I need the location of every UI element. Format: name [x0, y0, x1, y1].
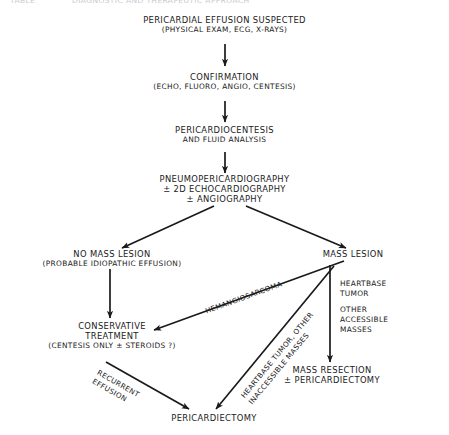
category-other-line2: ACCESSIBLE	[340, 315, 388, 325]
mass-lesion-category-heartbase: HEARTBASE TUMOR	[340, 279, 388, 298]
node-confirmation: CONFIRMATION (ECHO, FLUORO, ANGIO, CENTE…	[0, 73, 449, 92]
node-conservative-treatment: CONSERVATIVE TREATMENT (CENTESIS ONLY ± …	[0, 322, 224, 351]
arrow-imaging-to-mass-lesion	[246, 206, 346, 248]
category-heartbase-line1: HEARTBASE	[340, 279, 388, 289]
arrow-imaging-to-no-mass-lesion	[122, 206, 214, 248]
node-no-mass-lesion-line2: (PROBABLE IDIOPATHIC EFFUSION)	[0, 260, 224, 269]
node-pericardiectomy-line1: PERICARDIECTOMY	[134, 414, 294, 424]
node-mass-lesion-line1: MASS LESION	[288, 250, 418, 260]
node-conservative-line3: (CENTESIS ONLY ± STEROIDS ?)	[0, 342, 224, 351]
node-pericardiectomy: PERICARDIECTOMY	[134, 414, 294, 424]
node-suspected-line2: (PHYSICAL EXAM, ECG, X-RAYS)	[0, 26, 449, 35]
node-no-mass-lesion: NO MASS LESION (PROBABLE IDIOPATHIC EFFU…	[0, 250, 224, 269]
node-imaging-line3: ± ANGIOGRAPHY	[0, 195, 449, 205]
category-other-line1: OTHER	[340, 305, 388, 315]
node-pericardiocentesis-line2: AND FLUID ANALYSIS	[0, 136, 449, 145]
node-confirmation-line2: (ECHO, FLUORO, ANGIO, CENTESIS)	[0, 83, 449, 92]
flowchart-page: TABLE DIAGNOSTIC AND THERAPEUTIC APPROAC…	[0, 0, 449, 435]
mass-lesion-category-other-accessible: OTHER ACCESSIBLE MASSES	[340, 305, 388, 334]
node-pericardial-effusion-suspected: PERICARDIAL EFFUSION SUSPECTED (PHYSICAL…	[0, 16, 449, 35]
node-imaging: PNEUMOPERICARDIOGRAPHY ± 2D ECHOCARDIOGR…	[0, 175, 449, 205]
category-other-line3: MASSES	[340, 325, 388, 335]
mass-lesion-category-list: HEARTBASE TUMOR OTHER ACCESSIBLE MASSES	[340, 279, 388, 341]
category-heartbase-line2: TUMOR	[340, 289, 388, 299]
node-mass-lesion: MASS LESION	[288, 250, 418, 260]
node-pericardiocentesis: PERICARDIOCENTESIS AND FLUID ANALYSIS	[0, 126, 449, 145]
